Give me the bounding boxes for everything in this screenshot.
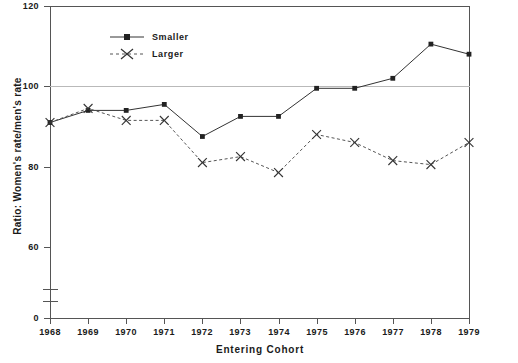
x-tick-label-1971: 1971: [144, 328, 184, 337]
x-tick-label-1968: 1968: [30, 328, 70, 337]
data-point-smaller-1970: [124, 108, 129, 113]
plot-area: 06080100120 1968196919701971197219731974…: [50, 6, 470, 319]
chart-legend: Smaller Larger: [110, 28, 189, 62]
legend-label-larger: Larger: [152, 49, 184, 59]
x-axis-label: Entering Cohort: [50, 344, 470, 355]
data-point-smaller-1971: [162, 102, 167, 107]
legend-key-smaller-icon: [110, 31, 144, 43]
x-tick-label-1975: 1975: [297, 328, 337, 337]
data-point-smaller-1977: [390, 76, 395, 81]
y-axis-label: Ratio: Women's rate/men's rate: [12, 46, 23, 266]
x-tick-label-1977: 1977: [373, 328, 413, 337]
data-point-smaller-1973: [238, 114, 243, 119]
x-tick-label-1974: 1974: [259, 328, 299, 337]
legend-item-smaller: Smaller: [110, 28, 189, 45]
x-tick-label-1978: 1978: [411, 328, 451, 337]
data-point-larger-1976: [350, 138, 359, 147]
y-tick-label-120: 120: [0, 2, 39, 11]
series-line-larger: [50, 108, 469, 172]
chart-figure: 06080100120 1968196919701971197219731974…: [0, 0, 518, 363]
x-tick-label-1969: 1969: [68, 328, 108, 337]
data-point-smaller-1979: [467, 52, 472, 57]
data-point-smaller-1974: [276, 114, 281, 119]
data-point-smaller-1972: [200, 134, 205, 139]
legend-key-larger-icon: [110, 48, 144, 60]
x-tick-label-1976: 1976: [335, 328, 375, 337]
data-point-larger-1974: [274, 168, 283, 177]
data-point-smaller-1976: [352, 86, 357, 91]
data-point-larger-1979: [465, 138, 474, 147]
x-tick-label-1970: 1970: [106, 328, 146, 337]
x-tick-label-1979: 1979: [449, 328, 489, 337]
legend-item-larger: Larger: [110, 45, 189, 62]
y-tick-label-0: 0: [0, 314, 39, 323]
x-tick-label-1973: 1973: [220, 328, 260, 337]
data-point-smaller-1978: [429, 42, 434, 47]
x-tick-label-1972: 1972: [182, 328, 222, 337]
data-point-larger-1975: [312, 130, 321, 139]
data-point-smaller-1975: [314, 86, 319, 91]
data-point-larger-1968: [46, 118, 55, 127]
legend-label-smaller: Smaller: [152, 32, 189, 42]
